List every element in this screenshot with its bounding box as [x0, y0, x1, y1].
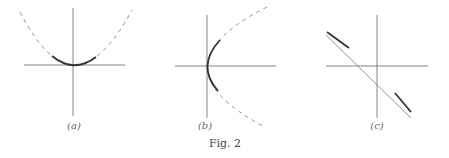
panel-label-b: (b)	[198, 120, 212, 131]
thick-segment-upper-c	[327, 32, 349, 48]
diagonal-line-c	[326, 35, 411, 118]
panel-b	[175, 7, 276, 126]
panel-label-a: (a)	[67, 120, 81, 131]
panel-c	[326, 15, 428, 118]
panel-label-c: (c)	[370, 120, 383, 131]
solid-parabola-a	[52, 56, 96, 65]
dashed-parabola-b	[207, 7, 267, 126]
panel-a	[20, 8, 132, 116]
thick-segment-lower-c	[395, 93, 411, 112]
figure-caption: Fig. 2	[209, 137, 241, 150]
dashed-parabola-a	[20, 10, 132, 65]
figure-canvas	[0, 0, 449, 158]
solid-parabola-b	[207, 40, 220, 91]
